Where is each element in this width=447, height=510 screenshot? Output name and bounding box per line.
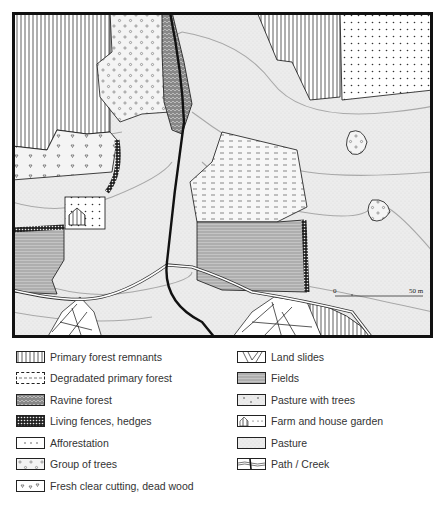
fields-area bbox=[197, 220, 307, 292]
legend-right-column: Land slides Fields Pasture with trees Fa… bbox=[237, 346, 383, 475]
legend-item: Group of trees bbox=[16, 454, 194, 476]
legend-label: Fields bbox=[271, 372, 299, 384]
dots-on-stipple-swatch-icon bbox=[237, 394, 266, 406]
stipple-swatch-icon bbox=[237, 437, 266, 449]
legend-item: Living fences, hedges bbox=[16, 411, 194, 433]
legend-item: Afforestation bbox=[16, 432, 194, 454]
legend-label: Farm and house garden bbox=[271, 415, 383, 427]
legend-item: Pasture bbox=[237, 432, 383, 454]
legend-label: Land slides bbox=[271, 351, 324, 363]
broken-lines-swatch-icon bbox=[237, 351, 266, 363]
house-swatch-icon bbox=[237, 415, 266, 427]
path-creek-swatch-icon bbox=[237, 458, 266, 470]
afforestation-area bbox=[340, 12, 433, 100]
legend-item: Degradated primary forest bbox=[16, 368, 194, 390]
wavy-hatch-swatch-icon bbox=[16, 394, 45, 406]
vertical-lines-swatch-icon bbox=[16, 351, 45, 363]
scale-end-label: 50 m bbox=[409, 287, 424, 295]
legend-label: Primary forest remnants bbox=[50, 351, 162, 363]
legend-label: Living fences, hedges bbox=[50, 415, 152, 427]
legend-item: Ravine forest bbox=[16, 389, 194, 411]
legend-item: Fresh clear cutting, dead wood bbox=[16, 475, 194, 497]
primary-forest-area bbox=[12, 12, 110, 150]
crosshatch-swatch-icon bbox=[16, 415, 45, 427]
legend-left-column: Primary forest remnants Degradated prima… bbox=[16, 346, 194, 497]
legend-item: Land slides bbox=[237, 346, 383, 368]
hedge bbox=[12, 227, 64, 230]
circles-on-stipple-swatch-icon bbox=[16, 458, 45, 470]
land-use-map: 0 50 m bbox=[12, 12, 433, 338]
horizontal-lines-swatch-icon bbox=[237, 372, 266, 384]
triangles-swatch-icon bbox=[16, 480, 45, 492]
legend-item: Farm and house garden bbox=[237, 411, 383, 433]
legend-label: Degradated primary forest bbox=[50, 372, 172, 384]
legend-label: Ravine forest bbox=[50, 394, 112, 406]
legend-label: Afforestation bbox=[50, 437, 109, 449]
legend-label: Path / Creek bbox=[271, 458, 329, 470]
legend-item: Primary forest remnants bbox=[16, 346, 194, 368]
legend-item: Path / Creek bbox=[237, 454, 383, 476]
legend-item: Fields bbox=[237, 368, 383, 390]
dashed-lines-swatch-icon bbox=[16, 372, 45, 384]
legend-label: Group of trees bbox=[50, 458, 117, 470]
legend-label: Fresh clear cutting, dead wood bbox=[50, 480, 194, 492]
hedge bbox=[304, 220, 307, 292]
dots-swatch-icon bbox=[16, 437, 45, 449]
legend-label: Pasture bbox=[271, 437, 307, 449]
legend-label: Pasture with trees bbox=[271, 394, 355, 406]
scale-start-label: 0 bbox=[333, 287, 337, 295]
legend-item: Pasture with trees bbox=[237, 389, 383, 411]
